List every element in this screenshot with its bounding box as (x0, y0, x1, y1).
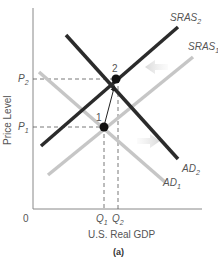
quantity-tick-q2: Q2 (112, 213, 124, 226)
sras-shift-left-arrow-icon (145, 60, 168, 74)
y-axis-label: Price Level (2, 96, 13, 145)
equilibrium-point-2 (112, 75, 121, 84)
point-2-label: 2 (112, 63, 118, 74)
sras2-label: SRAS2 (170, 12, 201, 25)
ad2-label: AD2 (181, 163, 200, 176)
ad2-curve (66, 35, 178, 159)
point-1-label: 1 (96, 112, 102, 123)
price-tick-p1: P1 (18, 121, 29, 134)
ad1-label: AD1 (162, 177, 181, 190)
quantity-tick-q1: Q1 (96, 213, 108, 226)
panel-label: (a) (113, 247, 124, 257)
ad-sras-diagram: 1 2 SRAS2 SRAS1 AD2 AD1 P2 P1 Q1 Q2 0 U.… (0, 0, 218, 259)
x-axis-label: U.S. Real GDP (88, 229, 156, 240)
price-tick-p2: P2 (18, 73, 29, 86)
sras1-label: SRAS1 (188, 41, 218, 54)
equilibrium-point-1 (100, 123, 109, 132)
origin-label: 0 (23, 213, 29, 224)
